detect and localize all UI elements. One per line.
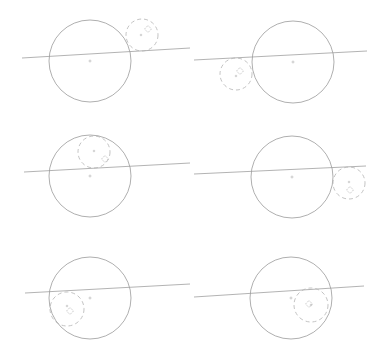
big-center-plus-icon	[89, 297, 92, 300]
diamond-marker-icon	[237, 68, 244, 75]
panel-1	[22, 19, 190, 102]
panel-5	[25, 257, 190, 339]
big-center-plus-icon	[290, 297, 293, 300]
diagram-canvas	[0, 0, 385, 358]
small-center-plus-icon	[235, 75, 237, 77]
small-center-plus-icon	[93, 150, 95, 152]
diamond-marker-icon	[347, 187, 354, 194]
small-dashed-circle	[220, 58, 252, 90]
big-center-plus-icon	[89, 175, 92, 178]
diamond-marker-icon	[145, 26, 152, 33]
small-center-plus-icon	[66, 305, 68, 307]
diamond-marker-icon	[102, 156, 109, 163]
big-center-plus-icon	[89, 60, 92, 63]
secant-line	[194, 51, 367, 60]
small-center-plus-icon	[348, 181, 350, 183]
small-center-plus-icon	[140, 34, 142, 36]
small-dashed-circle	[50, 292, 84, 326]
diamond-marker-icon	[306, 301, 313, 308]
secant-line	[24, 163, 190, 172]
secant-line	[194, 286, 364, 297]
big-center-plus-icon	[291, 176, 294, 179]
big-center-plus-icon	[292, 61, 295, 64]
panel-6	[194, 257, 364, 339]
diamond-marker-icon	[67, 308, 74, 315]
panel-2	[194, 21, 367, 103]
panel-3	[24, 135, 190, 217]
panel-4	[194, 136, 366, 218]
secant-line	[22, 48, 190, 58]
diagram-svg	[0, 0, 385, 358]
